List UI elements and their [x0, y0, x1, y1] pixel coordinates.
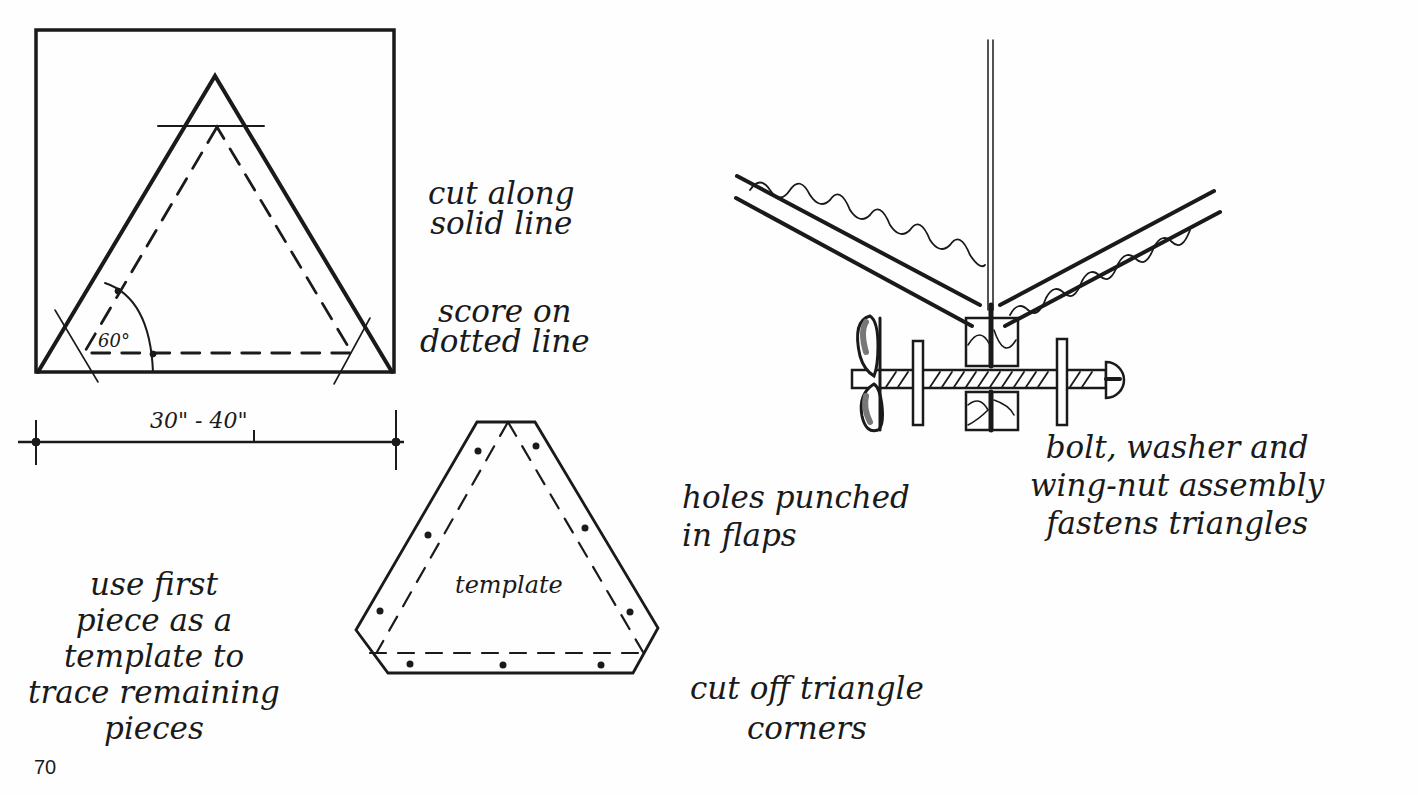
- annotation-use-first-piece: use first piece as a template to trace r…: [28, 566, 280, 746]
- template-piece-drawing: [356, 422, 658, 673]
- annotation-bolt-assembly: bolt, washer and wing-nut assembly faste…: [1030, 428, 1324, 542]
- angle-label: 60°: [98, 326, 130, 356]
- diagram-page: 60° 30" - 40" cut along solid line score…: [0, 0, 1418, 795]
- annotation-holes-punched: holes punched in flaps: [682, 478, 910, 554]
- square-sheet-drawing: [36, 30, 394, 384]
- template-center-label: template: [455, 570, 563, 600]
- dimension-label: 30" - 40": [150, 406, 248, 436]
- bolt-assembly-drawing: [736, 40, 1220, 431]
- page-number: 70: [34, 756, 56, 779]
- annotation-score-dotted-line: score on dotted line: [420, 296, 590, 356]
- annotation-cut-off-corners: cut off triangle corners: [690, 668, 924, 748]
- annotation-cut-solid-line: cut along solid line: [428, 178, 575, 238]
